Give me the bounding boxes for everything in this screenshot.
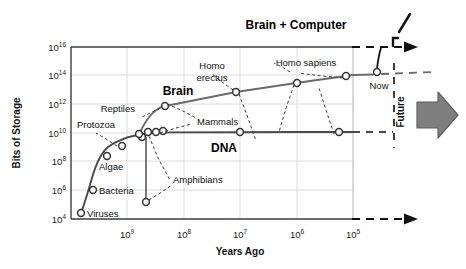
point-dna-now[interactable] xyxy=(336,129,343,136)
point-algae[interactable] xyxy=(104,153,111,160)
label-homo-erectus-line2: erectus xyxy=(196,72,227,83)
brain-series-label: Brain xyxy=(163,84,194,98)
label-algae: Algae xyxy=(99,161,123,172)
brain-to-now-segment xyxy=(353,75,374,76)
label-protozoa: Protozoa xyxy=(77,119,116,130)
point-homo-sapiens[interactable] xyxy=(343,73,350,80)
label-viruses: Viruses xyxy=(87,208,119,219)
brain-computer-header: Brain + Computer xyxy=(245,18,346,32)
point-bacteria[interactable] xyxy=(90,187,97,194)
point-viruses[interactable] xyxy=(78,210,85,217)
label-homo-sapiens: Homo sapiens xyxy=(276,57,337,68)
label-amphibians: Amphibians xyxy=(173,174,223,185)
dna-series-label: DNA xyxy=(211,141,237,155)
label-now: Now xyxy=(369,80,388,91)
chart-figure: 1016 1014 1012 1010 108 106 104 109 108 … xyxy=(0,0,466,269)
x-axis-title: Years Ago xyxy=(216,246,265,257)
point-dna-mid[interactable] xyxy=(237,129,244,136)
label-reptiles: Reptiles xyxy=(101,103,136,114)
label-bacteria: Bacteria xyxy=(99,185,135,196)
point-amphibians[interactable] xyxy=(143,199,150,206)
point-mammals[interactable] xyxy=(153,129,160,136)
point-protozoa[interactable] xyxy=(119,143,126,150)
point-homo-erectus[interactable] xyxy=(233,89,240,96)
point-dna-cluster-b[interactable] xyxy=(145,129,152,136)
label-homo-erectus-line1: Homo xyxy=(199,60,224,71)
y-axis-title: Bits of Storage xyxy=(11,97,22,169)
label-mammals: Mammals xyxy=(197,116,238,127)
point-brain-origin[interactable] xyxy=(136,131,143,138)
chart-svg: 1016 1014 1012 1010 108 106 104 109 108 … xyxy=(0,0,466,269)
point-now[interactable] xyxy=(374,69,381,76)
point-brain-mid[interactable] xyxy=(294,80,301,87)
future-region-label: Future xyxy=(395,96,406,128)
